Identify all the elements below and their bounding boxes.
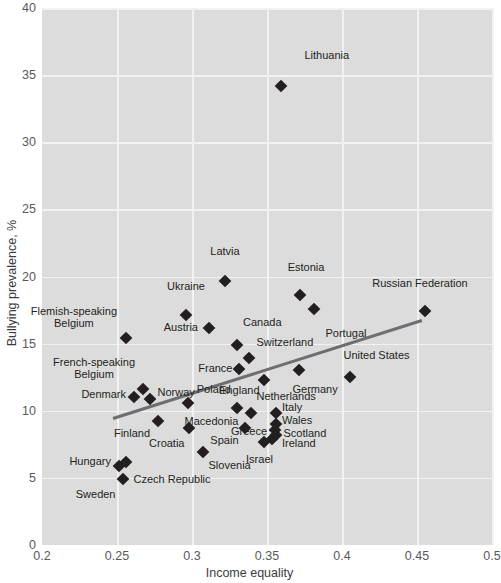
x-tick-label: 0.4 bbox=[333, 549, 350, 563]
x-tick-label: 0.25 bbox=[105, 549, 129, 563]
data-point-marker[interactable] bbox=[202, 321, 215, 334]
x-axis-title: Income equality bbox=[0, 566, 499, 580]
data-point-label: Portugal bbox=[326, 328, 367, 340]
x-tick-label: 0.45 bbox=[405, 549, 429, 563]
data-point-label: Russian Federation bbox=[372, 278, 467, 290]
data-point-marker[interactable] bbox=[117, 473, 130, 486]
data-point-label: Ireland bbox=[282, 438, 316, 450]
data-point-label: Poland bbox=[197, 384, 231, 396]
data-point-marker[interactable] bbox=[292, 364, 305, 377]
data-point-marker[interactable] bbox=[127, 391, 140, 404]
data-point-label: Latvia bbox=[210, 246, 239, 258]
data-point-label: Czech Republic bbox=[134, 474, 211, 486]
data-point-marker[interactable] bbox=[196, 446, 209, 459]
data-point-label: Sweden bbox=[76, 489, 116, 501]
y-tick-label: 20 bbox=[22, 270, 36, 284]
data-point-label: French-speakingBelgium bbox=[53, 357, 135, 381]
data-point-label: Estonia bbox=[288, 262, 325, 274]
data-point-marker[interactable] bbox=[418, 305, 431, 318]
gridline-horizontal bbox=[42, 142, 492, 144]
data-point-marker[interactable] bbox=[151, 415, 164, 428]
y-tick-label: 5 bbox=[29, 471, 36, 485]
data-point-label: Italy bbox=[282, 402, 302, 414]
y-tick-label: 10 bbox=[22, 404, 36, 418]
data-point-marker[interactable] bbox=[294, 289, 307, 302]
x-tick-label: 0.35 bbox=[255, 549, 279, 563]
gridline-horizontal bbox=[42, 209, 492, 211]
y-axis-title: Bullying prevalence, % bbox=[5, 153, 19, 413]
data-point-label: Hungary bbox=[69, 456, 111, 468]
data-point-marker[interactable] bbox=[232, 363, 245, 376]
data-point-label: Switzerland bbox=[257, 337, 314, 349]
y-tick-label: 25 bbox=[22, 202, 36, 216]
data-point-marker[interactable] bbox=[343, 371, 356, 384]
data-point-label: Lithuania bbox=[305, 50, 350, 62]
data-point-label: Canada bbox=[243, 317, 282, 329]
data-point-label: Ukraine bbox=[167, 281, 205, 293]
data-point-marker[interactable] bbox=[243, 352, 256, 365]
data-point-label: Flemish-speakingBelgium bbox=[31, 306, 117, 330]
data-point-marker[interactable] bbox=[231, 339, 244, 352]
data-point-label: United States bbox=[344, 351, 410, 363]
y-tick-label: 35 bbox=[22, 68, 36, 82]
x-tick-label: 0.5 bbox=[483, 549, 500, 563]
y-tick-label: 40 bbox=[22, 1, 36, 15]
plot-panel: LithuaniaLatviaEstoniaPortugalRussian Fe… bbox=[42, 8, 492, 545]
y-tick-label: 30 bbox=[22, 135, 36, 149]
data-point-marker[interactable] bbox=[274, 79, 287, 92]
data-point-marker[interactable] bbox=[307, 302, 320, 315]
data-point-label: Croatia bbox=[149, 438, 184, 450]
gridline-horizontal bbox=[42, 411, 492, 413]
gridline-horizontal bbox=[42, 478, 492, 480]
data-point-label: Austria bbox=[164, 322, 198, 334]
data-point-marker[interactable] bbox=[244, 407, 257, 420]
data-point-label: Finland bbox=[114, 428, 150, 440]
gridline-horizontal bbox=[42, 75, 492, 77]
data-point-label: Denmark bbox=[81, 389, 126, 401]
data-point-label: Slovenia bbox=[209, 460, 251, 472]
data-point-label: France bbox=[198, 363, 232, 375]
data-point-marker[interactable] bbox=[231, 402, 244, 415]
y-tick-label: 0 bbox=[29, 538, 36, 552]
gridline-vertical bbox=[492, 8, 494, 545]
x-tick-label: 0.3 bbox=[183, 549, 200, 563]
y-tick-label: 15 bbox=[22, 337, 36, 351]
gridline-horizontal bbox=[42, 8, 492, 10]
